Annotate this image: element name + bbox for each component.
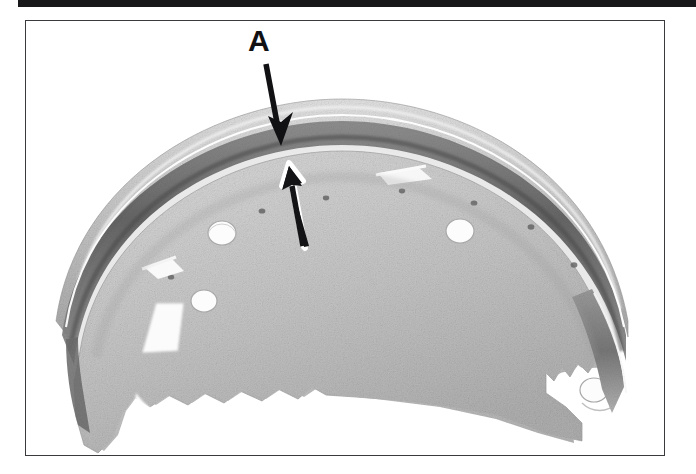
brake-shoe-photograph [26,21,664,455]
callout-label-a: A [248,26,270,56]
figure-page: A [0,0,696,474]
page-top-rule [18,0,696,7]
figure-frame [25,20,665,456]
brake-shoe-artwork [26,21,664,455]
